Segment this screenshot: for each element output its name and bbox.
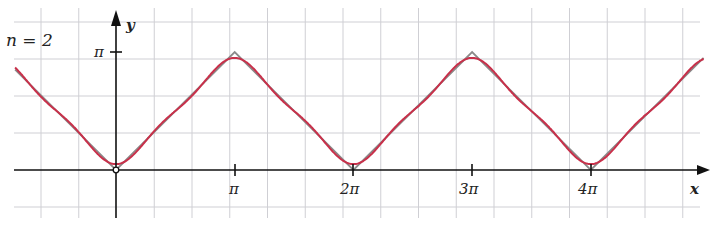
n-label: n = 2 bbox=[6, 30, 53, 50]
x-tick-label-3pi: 3π bbox=[459, 180, 480, 198]
x-axis-label: x bbox=[689, 180, 700, 198]
triangle-wave-curve bbox=[15, 52, 703, 170]
x-axis-arrow-icon bbox=[697, 165, 710, 175]
y-axis-arrow-icon bbox=[111, 10, 121, 26]
fourier-approximation-curve bbox=[15, 58, 704, 164]
curves bbox=[15, 52, 704, 170]
x-tick-label-2pi: 2π bbox=[339, 180, 361, 198]
origin-marker bbox=[113, 167, 119, 173]
y-axis-label: y bbox=[125, 16, 136, 34]
y-tick-label-pi: π bbox=[93, 43, 105, 61]
x-tick-label-pi: π bbox=[228, 180, 240, 198]
x-tick-label-4pi: 4π bbox=[577, 180, 599, 198]
fourier-plot: n = 2 y x π π 2π 3π 4π bbox=[0, 0, 713, 238]
